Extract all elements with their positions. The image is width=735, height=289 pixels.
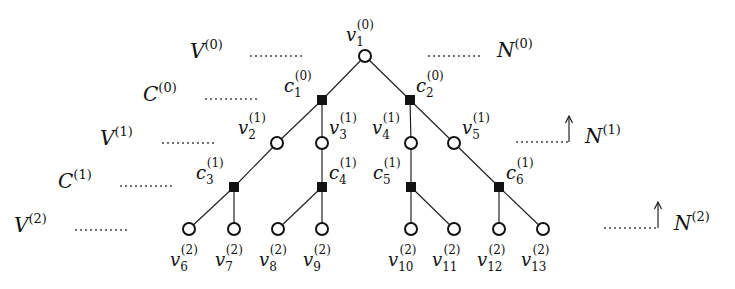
label-v3: v3(1) — [329, 111, 357, 142]
label-v13: v13(2) — [521, 243, 549, 274]
tanner-tree-diagram: v1(0) c1(0) c2(0) v2(1) v3(1) v4(1) v5(1… — [0, 0, 735, 289]
label-c4: c4(1) — [329, 156, 357, 187]
up-arrow-icon — [655, 202, 662, 228]
neighborhood-label-N1: N(1) — [584, 122, 621, 148]
label-v12: v12(2) — [477, 243, 505, 274]
label-v8: v8(2) — [259, 243, 287, 274]
label-c6: c6(1) — [506, 156, 534, 187]
check-node-c5 — [406, 182, 416, 192]
variable-node-v5 — [448, 137, 460, 149]
variable-node-v2 — [271, 137, 283, 149]
variable-node-v13 — [537, 223, 549, 235]
variable-node-v10 — [405, 223, 417, 235]
label-v6: v6(2) — [170, 243, 198, 274]
variable-node-v11 — [448, 223, 460, 235]
variable-node-v4 — [405, 137, 417, 149]
label-v10: v10(2) — [388, 243, 416, 274]
variable-node-v6 — [183, 223, 195, 235]
label-c5: c5(1) — [373, 156, 401, 187]
variable-node-v7 — [228, 223, 240, 235]
neighborhood-label-N0: N(0) — [496, 36, 533, 62]
level-label-V0: V(0) — [190, 37, 223, 63]
label-v11: v11(2) — [432, 243, 460, 274]
level-label-C1: C(1) — [58, 167, 92, 193]
level-label-C0: C(0) — [143, 80, 177, 106]
variable-node-v1 — [359, 50, 371, 62]
check-node-c3 — [229, 182, 239, 192]
variable-node-v8 — [272, 223, 284, 235]
check-node-c2 — [405, 95, 415, 105]
check-node-c4 — [317, 182, 327, 192]
label-v5: v5(1) — [462, 111, 490, 142]
level-labels: V(0) C(0) V(1) C(1) V(2) — [14, 37, 302, 237]
variable-node-v12 — [493, 223, 505, 235]
variable-node-v9 — [316, 223, 328, 235]
check-node-c1 — [317, 95, 327, 105]
tree-edges — [189, 56, 543, 229]
label-c2: c2(0) — [416, 69, 444, 100]
up-arrow-icon — [566, 116, 573, 142]
neighborhood-label-N2: N(2) — [673, 209, 710, 235]
label-v9: v9(2) — [303, 243, 331, 274]
variable-nodes — [183, 50, 549, 235]
level-label-V1: V(1) — [100, 124, 133, 150]
variable-node-v3 — [316, 137, 328, 149]
label-v2: v2(1) — [238, 111, 266, 142]
label-v1: v1(0) — [346, 18, 374, 49]
label-c1: c1(0) — [284, 69, 312, 100]
check-node-c6 — [494, 182, 504, 192]
label-v7: v7(2) — [215, 243, 243, 274]
label-v4: v4(1) — [372, 111, 400, 142]
level-label-V2: V(2) — [14, 211, 47, 237]
label-c3: c3(1) — [196, 156, 224, 187]
